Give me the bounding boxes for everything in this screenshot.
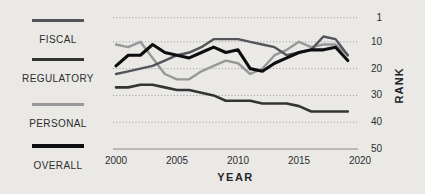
y-axis-title: RANK (393, 67, 405, 104)
x-tick-2005: 2005 (157, 155, 197, 167)
y-axis-title-wrap: RANK (386, 50, 412, 120)
y-tick-50: 50 (362, 143, 382, 155)
y-tick-1: 1 (362, 12, 382, 24)
y-tick-10: 10 (362, 36, 382, 48)
y-tick-40: 40 (362, 116, 382, 128)
x-axis-title: YEAR (113, 171, 358, 183)
y-tick-20: 20 (362, 63, 382, 75)
x-tick-2015: 2015 (279, 155, 319, 167)
regulatory-line (116, 85, 348, 112)
x-tick-2000: 2000 (96, 155, 136, 167)
y-tick-30: 30 (362, 89, 382, 101)
x-tick-2020: 2020 (340, 155, 380, 167)
x-tick-2010: 2010 (218, 155, 258, 167)
freedom-rank-chart: FISCAL REGULATORY PERSONAL OVERALL 11020… (0, 0, 425, 194)
